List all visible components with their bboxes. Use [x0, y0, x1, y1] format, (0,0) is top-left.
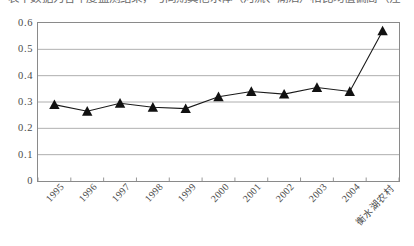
x-axis-tick-label: 1995	[44, 181, 67, 204]
y-axis-tick-label: 0.6	[0, 17, 33, 28]
x-axis-tick-label: 2003	[306, 181, 329, 204]
y-axis-tick-label: 0.5	[0, 43, 33, 54]
x-axis-tick-label: 1997	[110, 181, 133, 204]
x-axis-tick-label: 2000	[208, 181, 231, 204]
data-point-marker	[377, 26, 387, 36]
y-axis-tick-label: 0.3	[0, 96, 33, 107]
y-axis-tick-label: 0.1	[0, 148, 33, 159]
y-axis-tick-label: 0.2	[0, 122, 33, 133]
caption-text: 表中数据为各年度监测结果，与同期其他水体（河流、湖泊）相比均值偏高（注	[8, 0, 400, 5]
data-point-marker	[49, 99, 59, 109]
data-point-marker	[115, 98, 125, 108]
line-chart: 00.10.20.30.40.50.6 19951996199719981999…	[0, 9, 414, 246]
x-axis-tick-label: 2002	[274, 181, 297, 204]
y-axis-tick-label: 0.4	[0, 69, 33, 80]
x-axis-tick-label: 1998	[142, 181, 165, 204]
caption-strip: 表中数据为各年度监测结果，与同期其他水体（河流、湖泊）相比均值偏高（注	[0, 0, 414, 9]
chart-page: 表中数据为各年度监测结果，与同期其他水体（河流、湖泊）相比均值偏高（注 00.1…	[0, 0, 414, 246]
x-axis-tick-label: 1996	[77, 181, 100, 204]
data-point-marker	[312, 82, 322, 92]
data-point-marker	[246, 86, 256, 96]
x-axis: 1995199619971998199920002001200220032004…	[0, 181, 414, 246]
x-axis-tick-label: 1999	[175, 181, 198, 204]
x-axis-tick-label: 2001	[241, 181, 264, 204]
y-axis: 00.10.20.30.40.50.6	[0, 9, 33, 189]
x-axis-tick-label: 2004	[339, 181, 362, 204]
plot-svg	[38, 23, 399, 181]
plot-area	[37, 22, 400, 182]
